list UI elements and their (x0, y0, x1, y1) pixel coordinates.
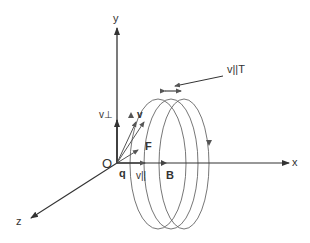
x-axis-label: x (292, 157, 298, 168)
velocity-label: v (137, 110, 143, 120)
y-axis-label: y (113, 13, 119, 24)
pitch-pointer-arrow (175, 76, 223, 86)
helix-direction-arrow (128, 112, 134, 118)
z-axis (31, 163, 117, 218)
helix-diagram (0, 0, 310, 243)
helix-direction-arrow (206, 140, 212, 146)
charge-label: q (119, 168, 126, 179)
z-axis-label: z (16, 216, 22, 227)
v-perp-label: v⊥ (99, 110, 113, 120)
force-label: F (145, 141, 152, 152)
pitch-label: v||T (227, 64, 245, 75)
b-field-arrow (161, 160, 167, 166)
b-field-label: B (166, 170, 174, 181)
v-parallel-label: v|| (136, 171, 146, 181)
origin-label: O (102, 157, 112, 170)
